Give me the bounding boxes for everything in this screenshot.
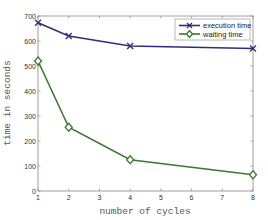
x-tick-label: 8 <box>251 194 255 201</box>
y-tick-label: 100 <box>24 163 36 170</box>
x-tick-label: 2 <box>67 194 71 201</box>
line-chart: 12345678 0100200300400500600700 number o… <box>0 0 268 220</box>
legend: execution time waiting time <box>175 19 251 40</box>
y-tick-label: 300 <box>24 113 36 120</box>
x-tick-label: 5 <box>159 194 163 201</box>
y-tick-labels: 0100200300400500600700 <box>24 13 36 195</box>
x-tick-label: 4 <box>128 194 132 201</box>
x-tick-labels: 12345678 <box>36 194 255 201</box>
x-tick-label: 1 <box>36 194 40 201</box>
x-axis-label: number of cycles <box>99 206 190 217</box>
y-tick-label: 200 <box>24 138 36 145</box>
y-tick-label: 700 <box>24 13 36 20</box>
x-tick-label: 7 <box>220 194 224 201</box>
y-tick-label: 600 <box>24 38 36 45</box>
y-axis-label: time in seconds <box>2 60 13 146</box>
x-tick-label: 6 <box>190 194 194 201</box>
plot-area <box>38 16 253 191</box>
y-tick-label: 500 <box>24 63 36 70</box>
x-tick-label: 3 <box>97 194 101 201</box>
y-tick-label: 400 <box>24 88 36 95</box>
legend-item-waiting-time: waiting time <box>179 30 243 39</box>
legend-label: waiting time <box>202 30 243 39</box>
y-tick-label: 0 <box>32 188 36 195</box>
